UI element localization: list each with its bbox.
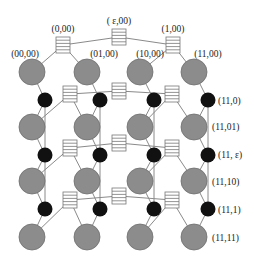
nodes — [19, 29, 216, 250]
host-node — [127, 168, 153, 194]
host-node — [19, 224, 45, 250]
edge — [119, 143, 172, 148]
edge — [63, 37, 119, 45]
host-node — [19, 114, 45, 140]
host-node — [181, 168, 207, 194]
switch-icon — [63, 192, 77, 208]
label-switch-0: (0,00) — [52, 24, 75, 35]
edge — [119, 91, 172, 94]
router-node — [147, 202, 162, 217]
label-switch-1: (1,00) — [162, 24, 185, 35]
edge — [119, 37, 173, 45]
host-node — [181, 224, 207, 250]
side-label: (11,11) — [212, 233, 239, 244]
router-node — [93, 202, 108, 217]
side-label: (11,10) — [212, 177, 239, 188]
host-node — [181, 114, 207, 140]
host-node — [74, 224, 100, 250]
host-node — [19, 168, 45, 194]
label-host-00: (00,00) — [11, 49, 39, 60]
switch-icon — [63, 86, 77, 102]
fat-tree-network-diagram: ( ε,00)(0,00)(1,00)(00,00)(01,00)(10,00)… — [0, 0, 254, 258]
switch-icon — [56, 37, 70, 53]
host-node — [19, 59, 45, 85]
router-node — [38, 148, 53, 163]
label-host-10: (10,00) — [136, 49, 164, 60]
router-node — [147, 93, 162, 108]
router-node — [147, 148, 162, 163]
label-root-switch: ( ε,00) — [107, 16, 132, 27]
switch-icon — [165, 86, 179, 102]
router-node — [38, 202, 53, 217]
switch-icon — [112, 188, 126, 204]
router-node — [93, 148, 108, 163]
label-host-01: (01,00) — [90, 49, 118, 60]
host-node — [127, 59, 153, 85]
switch-icon — [112, 83, 126, 99]
side-label: (11,0) — [218, 96, 241, 107]
host-node — [74, 168, 100, 194]
router-node — [93, 93, 108, 108]
side-label: (11, ε) — [218, 150, 242, 161]
host-node — [127, 114, 153, 140]
host-node — [127, 224, 153, 250]
switch-icon — [165, 140, 179, 156]
router-node — [201, 148, 216, 163]
host-node — [181, 59, 207, 85]
side-label: (11,01) — [212, 122, 239, 133]
host-node — [74, 114, 100, 140]
host-node — [74, 59, 100, 85]
side-label: (11,1) — [218, 205, 241, 216]
switch-icon — [165, 192, 179, 208]
switch-icon — [112, 135, 126, 151]
switch-icon — [112, 29, 126, 45]
router-node — [201, 202, 216, 217]
router-node — [38, 93, 53, 108]
label-host-11: (11,00) — [194, 49, 221, 60]
switch-icon — [166, 37, 180, 53]
switch-icon — [63, 140, 77, 156]
edge — [119, 196, 172, 200]
router-node — [201, 93, 216, 108]
